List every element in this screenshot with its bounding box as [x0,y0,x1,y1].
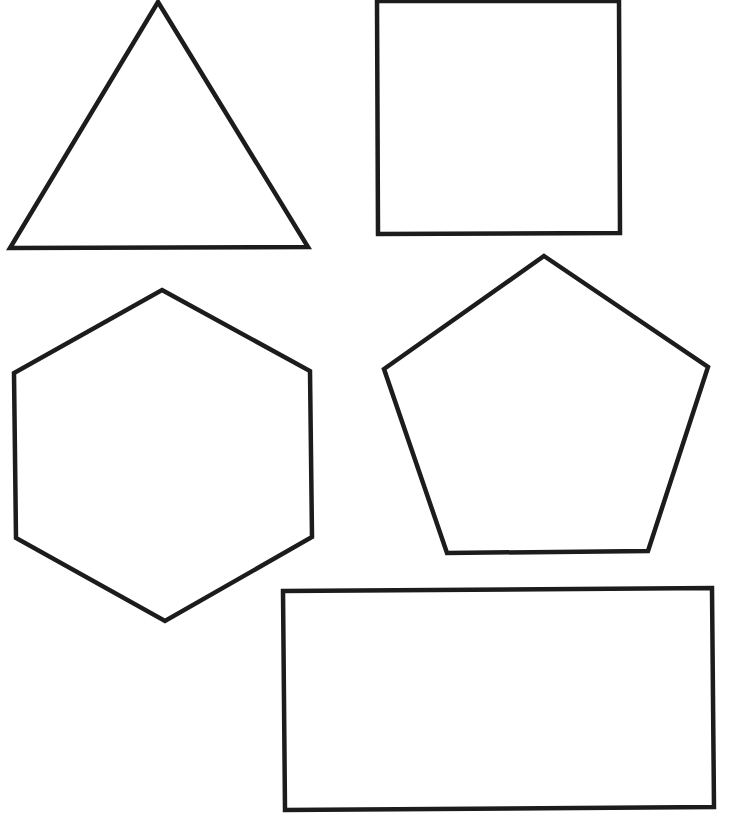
rectangle-shape [283,588,714,810]
pentagon-shape [384,256,708,553]
triangle-shape [10,2,308,248]
square-shape [377,1,620,234]
shapes-canvas [0,0,729,813]
hexagon-shape [14,290,312,621]
